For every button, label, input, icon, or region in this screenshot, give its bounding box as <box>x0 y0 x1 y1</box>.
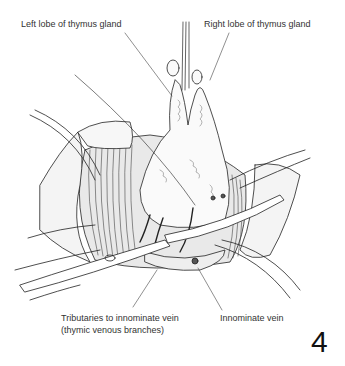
figure-number: 4 <box>311 326 328 358</box>
surgical-illustration <box>0 0 345 366</box>
label-tributaries: Tributaries to innominate vein <box>61 313 179 324</box>
label-tributaries-sub: (thymic venous branches) <box>61 325 164 336</box>
label-innominate-vein: Innominate vein <box>220 313 284 324</box>
thymus-gland <box>140 80 229 228</box>
label-left-lobe: Left lobe of thymus gland <box>21 19 122 30</box>
label-right-lobe: Right lobe of thymus gland <box>204 19 311 30</box>
